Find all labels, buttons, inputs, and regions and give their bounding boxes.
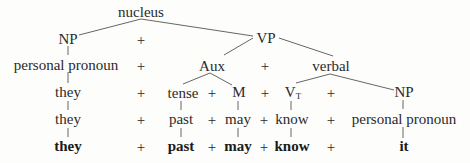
node-nucleus: nucleus bbox=[118, 5, 164, 20]
vt-label: V bbox=[285, 84, 296, 100]
node-they: they bbox=[55, 112, 81, 127]
output-may: may bbox=[224, 139, 252, 154]
node-know: know bbox=[275, 112, 308, 127]
plus-sign: + bbox=[208, 86, 216, 101]
plus-sign: + bbox=[327, 140, 335, 155]
node-personal-pronoun-subject: personal pronoun bbox=[14, 58, 119, 73]
output-know: know bbox=[274, 139, 309, 154]
node-personal-pronoun-object: personal pronoun bbox=[352, 112, 457, 127]
plus-sign: + bbox=[137, 59, 145, 74]
plus-sign: + bbox=[137, 113, 145, 128]
plus-sign: + bbox=[327, 113, 335, 128]
output-past: past bbox=[168, 139, 195, 154]
plus-sign: + bbox=[208, 113, 216, 128]
plus-sign: + bbox=[137, 86, 145, 101]
plus-sign: + bbox=[327, 86, 335, 101]
node-verbal: verbal bbox=[312, 59, 349, 74]
plus-sign: + bbox=[137, 140, 145, 155]
node-aux: Aux bbox=[199, 59, 225, 74]
plus-sign: + bbox=[260, 113, 268, 128]
plus-sign: + bbox=[260, 140, 268, 155]
vt-subscript: T bbox=[296, 91, 302, 101]
node-tense: tense bbox=[168, 86, 199, 101]
node-modal: M bbox=[232, 85, 245, 100]
plus-sign: + bbox=[261, 86, 269, 101]
plus-sign: + bbox=[137, 33, 145, 48]
output-it: it bbox=[399, 139, 408, 154]
plus-sign: + bbox=[208, 140, 216, 155]
syntax-tree-diagram: nucleus NP + VP personal pronoun + Aux +… bbox=[0, 0, 470, 163]
node-vp: VP bbox=[256, 31, 275, 46]
output-they: they bbox=[54, 139, 82, 154]
node-np-subject: NP bbox=[58, 32, 77, 47]
plus-sign: + bbox=[261, 59, 269, 74]
node-past: past bbox=[169, 112, 193, 127]
node-vt: VT bbox=[285, 85, 301, 101]
node-they: they bbox=[55, 85, 81, 100]
node-may: may bbox=[225, 112, 251, 127]
node-np-object: NP bbox=[394, 85, 413, 100]
